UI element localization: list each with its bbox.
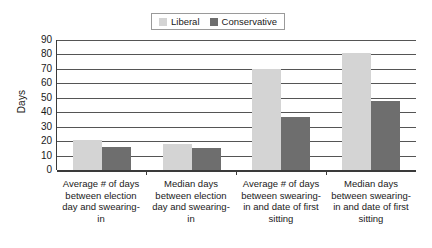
x-axis-category-label: Median days between swearing-in and date…	[326, 178, 416, 224]
x-axis-category-label: Average # of days between swearing-in an…	[236, 178, 326, 224]
y-axis-tick-label: 40	[41, 107, 52, 117]
x-axis-category-label: Average # of days between election day a…	[56, 178, 146, 224]
bar-conservative[interactable]	[192, 148, 221, 170]
y-axis-tick-label: 70	[41, 64, 52, 74]
bar-group	[326, 40, 416, 170]
bar-group	[237, 40, 327, 170]
x-axis-labels: Average # of days between election day a…	[56, 178, 416, 224]
bar-conservative[interactable]	[102, 147, 131, 170]
y-axis-tick-label: 60	[41, 78, 52, 88]
bar-group	[57, 40, 147, 170]
legend-swatch-conservative	[210, 18, 218, 26]
bar-liberal[interactable]	[73, 140, 102, 170]
x-axis-tick	[236, 170, 237, 175]
y-axis-tick-label: 20	[41, 136, 52, 146]
bar-conservative[interactable]	[371, 101, 400, 170]
y-axis-tick-label: 0	[46, 165, 52, 175]
bar-chart: Liberal Conservative Days 90807060504030…	[0, 0, 432, 248]
legend-label-liberal: Liberal	[171, 17, 200, 27]
plot-area	[56, 40, 416, 170]
legend-item-liberal: Liberal	[159, 17, 200, 27]
legend-item-conservative: Conservative	[210, 17, 277, 27]
y-axis-tick-label: 30	[41, 122, 52, 132]
chart-legend: Liberal Conservative	[151, 13, 285, 30]
x-axis-category-label: Median days between election day and swe…	[146, 178, 236, 224]
y-axis-tick-label: 50	[41, 93, 52, 103]
bar-liberal[interactable]	[252, 69, 281, 170]
x-axis-ticks	[56, 170, 416, 175]
bar-group	[147, 40, 237, 170]
y-axis-tick-labels: 9080706050403020100	[26, 34, 52, 176]
x-axis-tick	[146, 170, 147, 175]
bar-conservative[interactable]	[281, 117, 310, 170]
y-axis-tick-label: 90	[41, 35, 52, 45]
bar-liberal[interactable]	[342, 53, 371, 170]
bar-liberal[interactable]	[163, 144, 192, 170]
x-axis-tick	[326, 170, 327, 175]
y-axis-tick-label: 10	[41, 151, 52, 161]
legend-label-conservative: Conservative	[222, 17, 277, 27]
bar-groups	[57, 40, 416, 170]
y-axis-title: Days	[16, 72, 27, 132]
y-axis-tick-label: 80	[41, 49, 52, 59]
legend-swatch-liberal	[159, 18, 167, 26]
